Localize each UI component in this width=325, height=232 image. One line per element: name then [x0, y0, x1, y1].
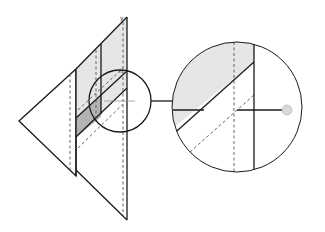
left-triangle-plane [19, 69, 76, 176]
right-triangle-bottom-edge [76, 170, 127, 220]
axis-label-y: y [120, 14, 124, 22]
geometry-diagram: y n [0, 0, 325, 232]
magnified-content [150, 20, 284, 180]
gray-dot [282, 105, 292, 115]
